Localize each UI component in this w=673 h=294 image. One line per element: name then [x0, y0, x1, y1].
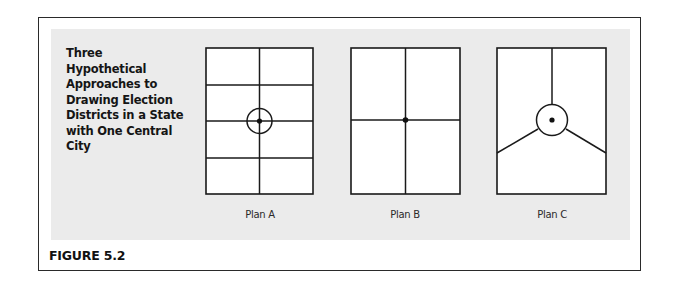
figure-title: Three Hypothetical Approaches to Drawing…: [66, 46, 186, 155]
title-line: City: [66, 139, 186, 155]
title-line: Approaches to: [66, 77, 186, 93]
title-line: Districts in a State: [66, 108, 186, 124]
plan-a-map-icon: [205, 47, 315, 197]
title-line: Three Hypothetical: [66, 46, 186, 77]
plan-b-diagram: [350, 47, 462, 197]
title-line: Drawing Election: [66, 93, 186, 109]
plan-c-diagram: [496, 47, 608, 197]
plan-a-caption: Plan A: [220, 209, 300, 220]
plan-a-diagram: [205, 47, 315, 197]
title-line: with One Central: [66, 124, 186, 140]
plan-b-map-icon: [350, 47, 462, 197]
plan-c-caption: Plan C: [512, 209, 592, 220]
plan-b-caption: Plan B: [365, 209, 445, 220]
plan-c-map-icon: [496, 47, 608, 197]
figure-label: FIGURE 5.2: [49, 248, 125, 263]
